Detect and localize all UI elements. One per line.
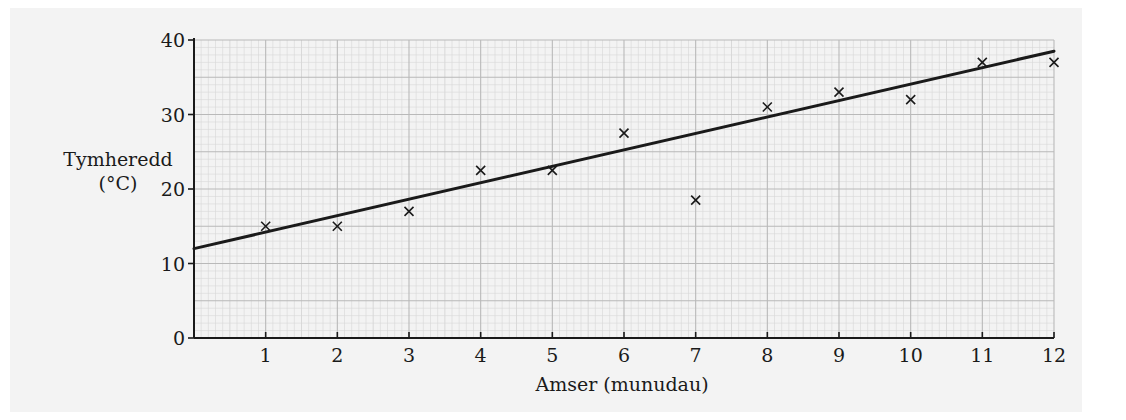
y-tick-label: 0 (173, 327, 185, 349)
grid (194, 40, 1054, 338)
y-tick-label: 40 (161, 29, 185, 51)
x-tick-label: 4 (475, 344, 487, 366)
x-tick-label: 10 (899, 344, 923, 366)
y-tick-label: 10 (161, 253, 185, 275)
x-tick-label: 5 (546, 344, 558, 366)
x-tick-label: 3 (403, 344, 415, 366)
x-tick-label: 9 (833, 344, 845, 366)
y-tick-label: 20 (161, 178, 185, 200)
chart: 123456789101112010203040 Tymheredd (°C) … (0, 0, 1126, 420)
y-tick-label: 30 (161, 104, 185, 126)
x-axis-title: Amser (munudau) (534, 373, 708, 395)
x-tick-label: 6 (618, 344, 630, 366)
x-tick-label: 12 (1042, 344, 1066, 366)
y-axis-title-line-1: Tymheredd (63, 148, 173, 170)
y-axis-title-line-2: (°C) (99, 172, 138, 194)
x-tick-label: 8 (761, 344, 773, 366)
x-tick-label: 7 (690, 344, 702, 366)
x-tick-label: 2 (331, 344, 343, 366)
x-tick-label: 11 (970, 344, 994, 366)
x-tick-label: 1 (260, 344, 272, 366)
